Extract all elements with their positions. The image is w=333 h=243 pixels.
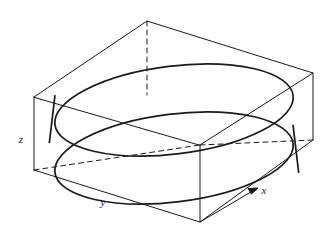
cylinder-bottom-ellipse xyxy=(50,100,299,217)
cylinder-side-right xyxy=(293,125,299,173)
axis-label-x: x xyxy=(261,184,267,196)
cylinder-top-ellipse xyxy=(50,52,299,169)
x-axis-arrow xyxy=(200,188,258,222)
axis-label-z: z xyxy=(18,133,24,145)
axis-label-y: y xyxy=(100,196,106,208)
box-top-face xyxy=(34,21,313,145)
three-d-region-figure: z y x xyxy=(0,0,333,243)
box-bottom-front-edges xyxy=(34,140,313,222)
